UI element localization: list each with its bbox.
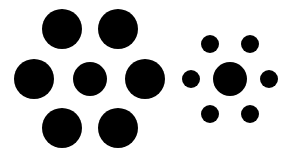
left-group: [14, 9, 165, 148]
surround-circle: [42, 9, 82, 49]
figure-canvas: [0, 0, 293, 158]
ebbinghaus-figure: [0, 0, 293, 158]
surround-circle: [260, 70, 278, 88]
surround-circle: [241, 35, 259, 53]
surround-circle: [14, 59, 54, 99]
surround-circle: [98, 108, 138, 148]
center-circle: [213, 62, 247, 96]
surround-circle: [182, 70, 200, 88]
surround-circle: [98, 9, 138, 49]
surround-circle: [42, 108, 82, 148]
surround-circle: [125, 59, 165, 99]
surround-circle: [201, 105, 219, 123]
surround-circle: [201, 35, 219, 53]
surround-circle: [241, 105, 259, 123]
center-circle: [73, 62, 107, 96]
right-group: [182, 35, 278, 123]
